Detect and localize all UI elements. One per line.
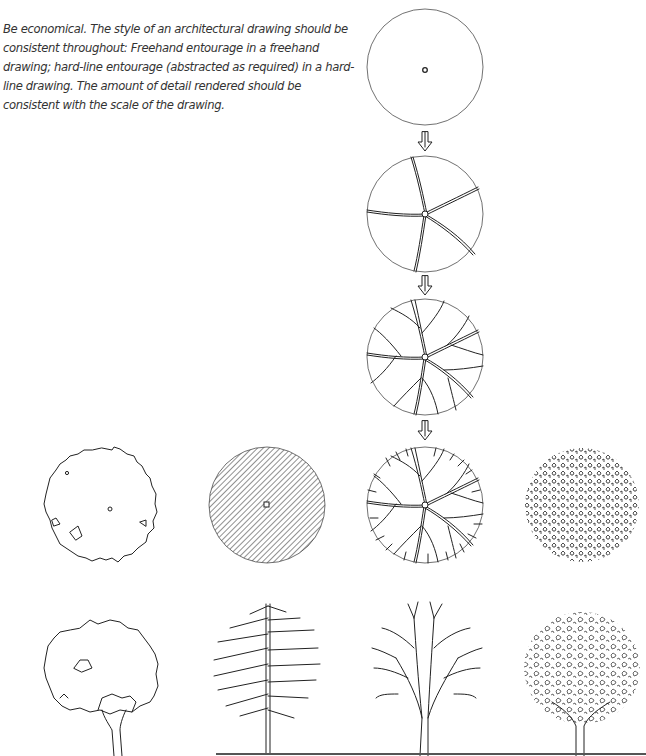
tree-plan-hatched-icon <box>208 446 326 564</box>
arrow-down-icon <box>416 131 434 153</box>
ground-line <box>216 753 646 755</box>
tree-plan-secondary-branches-icon <box>366 298 484 416</box>
tree-plan-leaf-texture-icon <box>524 446 640 564</box>
caption-line: consistent throughout: Freehand entourag… <box>3 39 333 58</box>
caption-text: Be economical. The style of an architect… <box>3 20 333 115</box>
tree-elevation-foliage-icon <box>522 598 640 756</box>
caption-line: consistent with the scale of the drawing… <box>3 96 333 115</box>
tree-plan-branching-icon <box>366 446 484 564</box>
tree-elevation-branching-icon <box>368 598 486 756</box>
arrow-down-icon <box>416 420 434 442</box>
tree-plan-outline-icon <box>366 8 484 126</box>
caption-line: drawing; hard-line entourage (abstracted… <box>3 58 333 77</box>
tree-elevation-outline-icon <box>40 598 170 756</box>
tree-plan-foliage-outline-icon <box>42 446 160 564</box>
caption-line: Be economical. The style of an architect… <box>3 20 333 39</box>
arrow-down-icon <box>416 275 434 297</box>
tree-elevation-herringbone-icon <box>210 598 328 756</box>
caption-line: line drawing. The amount of detail rende… <box>3 77 333 96</box>
tree-plan-main-branches-icon <box>366 155 484 273</box>
